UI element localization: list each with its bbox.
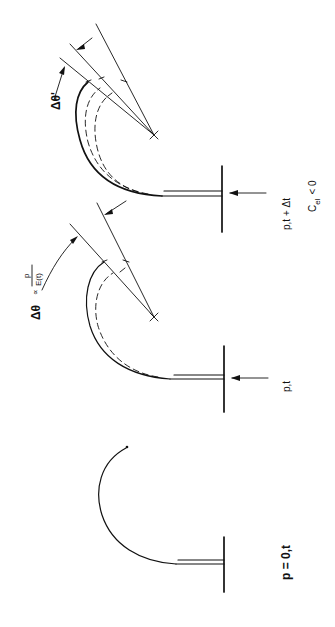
stage-3-label-line2: Cel< 0 <box>307 180 322 212</box>
stage-1-label-text: p = 0,t <box>279 545 293 580</box>
stage-2-dim-leader <box>42 238 76 290</box>
stage-1-label: p = 0,t <box>279 545 293 580</box>
stage-2-label-text: p,t <box>281 381 292 392</box>
stage-2-pressure-arrowhead <box>231 375 240 381</box>
stage-3-label-line1: p,t + Δt <box>281 198 292 230</box>
delta-theta-symbol: Δθ <box>29 305 43 320</box>
stage-1-curve <box>99 448 176 564</box>
stage-2-radial-2 <box>97 203 154 317</box>
stage-3-pressure-arrowhead <box>229 190 238 196</box>
stage-2-tube <box>42 201 268 412</box>
stage-3-radial-2 <box>70 44 154 135</box>
stage-3-radial-1 <box>60 58 154 135</box>
stage-3-tube <box>54 24 266 232</box>
stage-3-curve-solid <box>76 82 162 196</box>
bourdon-tube-diagram: p = 0,t p,t Δθ ∝ p <box>0 0 335 627</box>
stage-1-tube <box>99 446 224 592</box>
fraction-denominator: E(t) <box>34 273 43 286</box>
stage-3-radial-3 <box>96 24 154 135</box>
stage-2-labels: p,t Δθ ∝ p E(t) <box>22 265 292 392</box>
fraction-numerator: p <box>22 273 31 278</box>
stage-1-tip <box>126 446 129 449</box>
stage-2-radial-1 <box>70 224 154 317</box>
proportional-symbol: ∝ <box>31 289 40 295</box>
delta-theta-prime-label: Δθ' <box>49 92 63 110</box>
stage-2-curve-dashed <box>96 273 158 377</box>
